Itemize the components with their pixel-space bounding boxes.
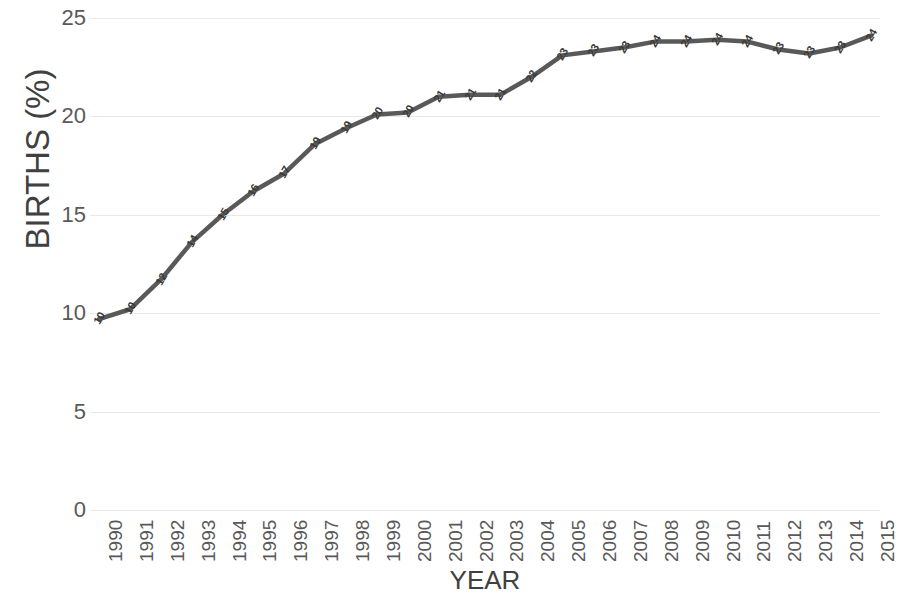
data-point-label: 21 xyxy=(461,86,477,102)
x-tick-label: 1990 xyxy=(106,520,125,562)
x-tick-label: 2005 xyxy=(569,520,588,562)
x-tick-label: 2000 xyxy=(415,520,434,562)
y-tick-label: 5 xyxy=(42,401,86,423)
x-tick-label: 1998 xyxy=(353,520,372,562)
data-point-label: 24 xyxy=(863,27,879,43)
x-tick-label: 2002 xyxy=(477,520,496,562)
x-tick-label: 2010 xyxy=(724,520,743,562)
x-tick-label: 2013 xyxy=(816,520,835,562)
x-tick-label: 2004 xyxy=(538,520,557,562)
x-tick-label: 2006 xyxy=(600,520,619,562)
data-point-label: 15 xyxy=(214,206,230,222)
x-tick-label: 2014 xyxy=(847,520,866,562)
x-tick-label: 2001 xyxy=(446,520,465,562)
y-axis-tick-labels: 0510152025 xyxy=(30,0,86,602)
x-tick-label: 2012 xyxy=(785,520,804,562)
x-tick-label: 1997 xyxy=(322,520,341,562)
x-tick-label: 2008 xyxy=(662,520,681,562)
x-tick-label: 1996 xyxy=(291,520,310,562)
data-point-label: 10 xyxy=(91,310,107,326)
y-tick-label: 25 xyxy=(42,7,86,29)
data-point-label: 20 xyxy=(369,105,385,121)
data-point-label: 24 xyxy=(647,33,663,49)
data-point-label: 23 xyxy=(832,38,848,54)
data-point-label: 23 xyxy=(554,46,570,62)
x-tick-label: 1994 xyxy=(230,520,249,562)
data-point-label: 22 xyxy=(523,68,539,84)
data-point-label: 14 xyxy=(184,233,200,249)
data-point-label: 16 xyxy=(245,182,261,198)
y-tick-label: 10 xyxy=(42,302,86,324)
data-point-label: 10 xyxy=(122,300,138,316)
plot-area: 1010121415161719192020212121222323232424… xyxy=(90,18,880,510)
x-tick-label: 1993 xyxy=(199,520,218,562)
data-point-label: 12 xyxy=(153,271,169,287)
data-point-label: 21 xyxy=(431,88,447,104)
x-tick-label: 1999 xyxy=(384,520,403,562)
data-point-label: 24 xyxy=(708,31,724,47)
data-point-label: 23 xyxy=(616,38,632,54)
data-point-label: 21 xyxy=(492,86,508,102)
y-tick-label: 0 xyxy=(42,499,86,521)
data-point-label: 17 xyxy=(276,164,292,180)
x-tick-label: 2007 xyxy=(631,520,650,562)
x-tick-label: 1991 xyxy=(137,520,156,562)
data-point-label: 19 xyxy=(338,119,354,135)
y-tick-label: 20 xyxy=(42,105,86,127)
x-tick-label: 2011 xyxy=(754,521,773,562)
x-tick-label: 2003 xyxy=(507,520,526,562)
x-axis-title: YEAR xyxy=(90,565,880,596)
x-tick-label: 2009 xyxy=(693,520,712,562)
data-point-label: 23 xyxy=(585,42,601,58)
x-tick-label: 2015 xyxy=(878,520,897,562)
data-point-label: 24 xyxy=(739,33,755,49)
x-axis-tick-labels: 1990199119921993199419951996199719981999… xyxy=(90,510,880,570)
data-point-label: 23 xyxy=(770,40,786,56)
data-point-label: 19 xyxy=(307,135,323,151)
data-point-label: 20 xyxy=(400,103,416,119)
chart-page: BIRTHS (%) 0510152025 101012141516171919… xyxy=(0,0,898,602)
y-tick-label: 15 xyxy=(42,204,86,226)
x-tick-label: 1995 xyxy=(260,520,279,562)
data-point-labels: 1010121415161719192020212121222323232424… xyxy=(90,18,880,510)
data-point-label: 24 xyxy=(678,33,694,49)
x-tick-label: 1992 xyxy=(168,520,187,562)
data-point-label: 23 xyxy=(801,44,817,60)
